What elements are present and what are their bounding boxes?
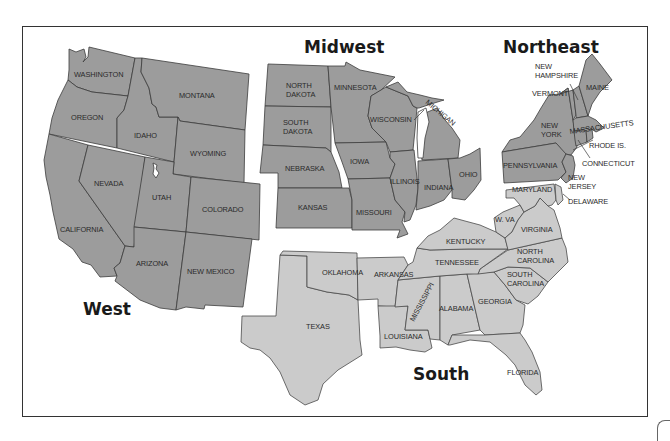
state-delaware[interactable] <box>555 184 563 205</box>
label-utah: UTAH <box>152 193 171 202</box>
label-south-carolina-2: CAROLINA <box>507 279 544 288</box>
label-nebraska: NEBRASKA <box>285 164 325 173</box>
label-kansas: KANSAS <box>298 203 328 212</box>
label-arkansas: ARKANSAS <box>374 270 414 279</box>
label-florida: FLORIDA <box>507 368 539 377</box>
label-nevada: NEVADA <box>94 179 123 188</box>
label-new-hampshire-1: NEW <box>535 62 552 71</box>
label-missouri: MISSOURI <box>356 208 392 217</box>
label-north-carolina-1: NORTH <box>517 247 543 256</box>
label-south-dakota-1: SOUTH <box>283 118 308 127</box>
region-title-west: West <box>83 299 131 319</box>
label-idaho: IDAHO <box>134 131 157 140</box>
label-oregon: OREGON <box>71 113 103 122</box>
label-california: CALIFORNIA <box>60 225 104 234</box>
label-new-york-2: YORK <box>541 130 562 139</box>
label-new-york-1: NEW <box>541 121 558 130</box>
label-illinois: ILLINOIS <box>390 177 420 186</box>
label-vermont: VERMONT <box>532 89 569 98</box>
label-new-jersey-1: NEW <box>568 173 585 182</box>
label-wisconsin: WISCONSIN <box>370 115 412 124</box>
label-north-carolina-2: CAROLINA <box>517 256 554 265</box>
label-texas: TEXAS <box>306 322 330 331</box>
label-maryland: MARYLAND <box>512 185 552 194</box>
label-south-dakota-2: DAKOTA <box>283 127 312 136</box>
label-virginia: VIRGINIA <box>521 225 553 234</box>
state-new-york[interactable] <box>502 88 577 155</box>
label-tennessee: TENNESSEE <box>435 258 479 267</box>
label-west-virginia: W. VA <box>495 215 515 224</box>
label-maine: MAINE <box>586 83 609 92</box>
label-oklahoma: OKLAHOMA <box>322 268 363 277</box>
label-kentucky: KENTUCKY <box>446 237 486 246</box>
label-alabama: ALABAMA <box>439 304 473 313</box>
label-new-jersey-2: JERSEY <box>568 182 596 191</box>
label-new-hampshire-2: HAMPSHIRE <box>535 71 578 80</box>
label-georgia: GEORGIA <box>478 297 512 306</box>
label-delaware: DELAWARE <box>568 197 608 206</box>
label-ohio: OHIO <box>459 170 478 179</box>
label-south-carolina-1: SOUTH <box>507 270 532 279</box>
label-washington: WASHINGTON <box>74 70 124 79</box>
label-colorado: COLORADO <box>202 205 244 214</box>
label-pennsylvania: PENNSYLVANIA <box>503 161 558 170</box>
label-iowa: IOWA <box>350 157 369 166</box>
region-title-midwest: Midwest <box>304 37 384 57</box>
label-wyoming: WYOMING <box>190 149 227 158</box>
label-new-mexico: NEW MEXICO <box>187 267 235 276</box>
label-minnesota: MINNESOTA <box>334 83 377 92</box>
page-corner-mark <box>657 420 670 441</box>
label-indiana: INDIANA <box>424 183 453 192</box>
region-title-northeast: Northeast <box>503 37 599 57</box>
label-montana: MONTANA <box>179 91 215 100</box>
label-north-dakota-2: DAKOTA <box>286 90 315 99</box>
region-title-south: South <box>413 364 469 384</box>
label-north-dakota-1: NORTH <box>286 81 312 90</box>
label-arizona: ARIZONA <box>136 259 168 268</box>
label-connecticut: CONNECTICUT <box>582 159 635 168</box>
label-louisiana: LOUISIANA <box>384 332 423 341</box>
label-rhode-island: RHODE IS. <box>589 141 626 150</box>
